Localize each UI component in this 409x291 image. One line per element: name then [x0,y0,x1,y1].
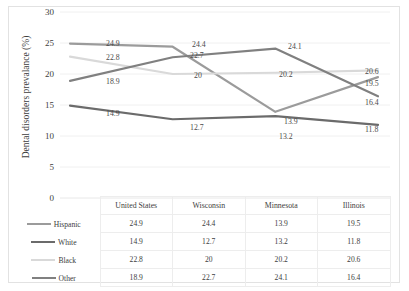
legend-swatch-black [31,259,55,261]
data-label: 16.4 [365,98,379,107]
line-chart-svg: 24.924.413.919.514.912.713.211.822.82020… [60,8,390,198]
table-cell: 20.6 [318,251,391,269]
data-table-body: United StatesWisconsinMinnesotaIllinoisH… [8,197,390,287]
plot-area: 24.924.413.919.514.912.713.211.822.82020… [60,8,390,198]
legend-swatch-white [31,241,55,243]
data-label: 22.8 [106,53,120,62]
table-cell: 13.2 [245,233,318,251]
legend-entry-hispanic[interactable]: Hispanic [8,215,100,233]
table-cell: 24.4 [173,215,246,233]
legend-entry-white[interactable]: White [8,233,100,251]
data-table: United StatesWisconsinMinnesotaIllinoisH… [8,196,391,287]
table-row: Hispanic24.924.413.919.5 [8,215,390,233]
table-cell: 19.5 [318,215,391,233]
data-label: 13.9 [284,117,298,126]
data-label: 14.9 [106,109,120,118]
table-cell: 16.4 [318,269,391,287]
table-row: White14.912.713.211.8 [8,233,390,251]
data-label: 20.6 [365,67,379,76]
column-header-united-states: United States [100,197,173,215]
table-cell: 14.9 [100,233,173,251]
data-label: 18.9 [106,77,120,86]
y-axis-tick-label: 10 [28,132,54,141]
table-cell: 24.9 [100,215,173,233]
table-row: Black22.82020.220.6 [8,251,390,269]
data-label: 24.4 [192,40,206,49]
legend-label: Hispanic [54,220,81,229]
data-label: 24.1 [288,42,302,51]
column-header-minnesota: Minnesota [245,197,318,215]
data-label: 12.7 [190,123,204,132]
legend-swatch-hispanic [27,223,51,225]
table-cell: 18.9 [100,269,173,287]
y-axis-tick-label: 30 [28,8,54,17]
table-cell: 22.7 [173,269,246,287]
column-header-illinois: Illinois [318,197,391,215]
table-cell: 20.2 [245,251,318,269]
legend-label: Other [59,274,76,283]
table-cell: 13.9 [245,215,318,233]
legend-label: White [58,238,77,247]
data-label: 13.2 [279,132,293,141]
table-cell: 20 [173,251,246,269]
data-label: 19.5 [365,79,379,88]
y-axis-tick-label: 20 [28,70,54,79]
legend-entry-other[interactable]: Other [8,269,100,287]
table-cell: 24.1 [245,269,318,287]
data-label: 22.7 [190,51,204,60]
data-label: 20 [194,71,202,80]
legend-label: Black [58,256,76,265]
table-cell: 12.7 [173,233,246,251]
column-header-wisconsin: Wisconsin [173,197,246,215]
data-label: 24.9 [106,39,120,48]
y-axis-tick-label: 15 [28,101,54,110]
data-label: 20.2 [279,70,293,79]
chart-page: Dental disorders prevalance (%) 30252015… [0,0,409,291]
y-axis-title: Dental disorders prevalance (%) [21,27,31,167]
table-cell: 22.8 [100,251,173,269]
y-axis-tick-label: 25 [28,39,54,48]
legend-swatch-other [32,277,56,279]
data-label: 11.8 [365,125,378,134]
legend-entry-black[interactable]: Black [8,251,100,269]
table-header-row: United StatesWisconsinMinnesotaIllinois [8,197,390,215]
table-row: Other18.922.724.116.4 [8,269,390,287]
y-axis-tick-label: 5 [28,163,54,172]
table-cell: 11.8 [318,233,391,251]
table-corner-cell [8,197,100,215]
